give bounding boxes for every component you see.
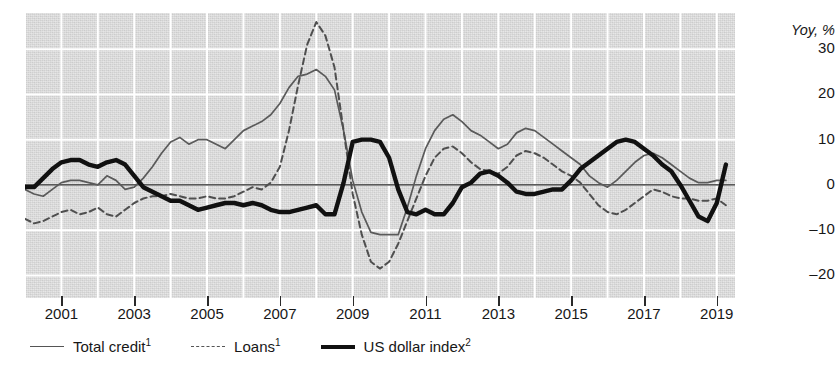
x-tick-label: 2003 [104,305,164,322]
legend-label: Loans1 [234,338,280,355]
x-tick-label: 2015 [541,305,601,322]
legend-item[interactable]: Total credit1 [30,338,151,355]
x-tick-mark [61,296,63,306]
legend-footnote-marker: 1 [275,337,281,348]
x-tick-mark [498,296,500,306]
x-tick-mark [134,296,136,306]
y-tick-label: 10 [747,130,835,147]
legend-footnote-marker: 1 [146,337,152,348]
solid-thin-swatch [30,346,64,347]
x-tick-label: 2001 [31,305,91,322]
plot-svg [25,13,735,298]
y-tick-label: –10 [747,220,835,237]
x-tick-mark [353,296,355,306]
x-tick-mark [280,296,282,306]
series-line-loans [25,22,726,269]
series-line-us-dollar-index [25,140,726,221]
y-tick-label: 20 [747,84,835,101]
x-tick-label: 2017 [614,305,674,322]
dashed-swatch [191,346,225,347]
legend-label: US dollar index2 [364,338,471,355]
x-tick-label: 2011 [396,305,456,322]
legend-item[interactable]: US dollar index2 [321,338,471,355]
x-tick-mark [644,296,646,306]
thick-solid-swatch [321,345,355,349]
chart-figure: Yoy, % 3020100–10–20 2001200320052007200… [0,0,835,375]
y-tick-label: –20 [747,265,835,282]
plot-area [25,13,735,298]
x-tick-mark [426,296,428,306]
x-tick-mark [717,296,719,306]
chart-legend: Total credit1Loans1US dollar index2 [30,338,471,355]
gridlines [25,13,735,298]
x-tick-mark [571,296,573,306]
x-tick-label: 2013 [468,305,528,322]
y-tick-label: 0 [747,175,835,192]
series-lines [25,22,726,269]
y-tick-label: 30 [747,39,835,56]
x-tick-label: 2005 [177,305,237,322]
x-tick-label: 2009 [323,305,383,322]
legend-item[interactable]: Loans1 [191,338,280,355]
x-tick-label: 2019 [687,305,747,322]
x-tick-label: 2007 [250,305,310,322]
x-tick-mark [207,296,209,306]
axis-unit-label: Yoy, % [747,22,835,38]
legend-footnote-marker: 2 [465,337,471,348]
legend-label: Total credit1 [73,338,151,355]
